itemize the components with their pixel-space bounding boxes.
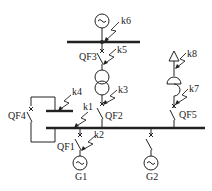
label-k5: k5 bbox=[117, 44, 127, 55]
breaker-QF1 bbox=[75, 128, 82, 156]
sine-icon bbox=[76, 162, 84, 165]
label-k3: k3 bbox=[118, 84, 128, 95]
label-G1: G1 bbox=[75, 171, 87, 182]
transformer bbox=[95, 70, 109, 104]
label-G2: G2 bbox=[146, 171, 158, 182]
fault-arrow-k5 bbox=[103, 49, 116, 65]
label-k8: k8 bbox=[187, 48, 197, 59]
breaker-QF5 bbox=[170, 104, 176, 128]
label-k2: k2 bbox=[94, 129, 104, 140]
fault-arrow-k4 bbox=[58, 95, 71, 111]
fault-arrow-k2 bbox=[81, 136, 95, 151]
label-QF3: QF3 bbox=[79, 51, 97, 62]
breaker-QF4 bbox=[27, 97, 55, 142]
top-generator bbox=[95, 14, 109, 41]
breaker-x-icon bbox=[29, 107, 33, 111]
label-QF2: QF2 bbox=[105, 110, 123, 121]
generator-G1 bbox=[73, 156, 87, 170]
sine-icon bbox=[98, 20, 106, 23]
fault-arrow-k6 bbox=[104, 22, 119, 42]
label-k1: k1 bbox=[83, 101, 93, 112]
breaker-QF2 bbox=[97, 102, 104, 128]
generator-G2 bbox=[144, 156, 158, 170]
label-k6: k6 bbox=[121, 15, 131, 26]
fault-arrow-k1 bbox=[74, 112, 88, 128]
label-QF5: QF5 bbox=[179, 109, 197, 120]
label-QF4: QF4 bbox=[8, 110, 26, 121]
label-k7: k7 bbox=[189, 83, 199, 94]
breaker-QF3 bbox=[97, 42, 104, 70]
single-line-diagram: k6 QF3 k5 k3 QF2 k1 bbox=[0, 0, 212, 191]
label-k4: k4 bbox=[72, 86, 82, 97]
fault-arrow-k7 bbox=[175, 89, 188, 105]
load-arrow bbox=[169, 51, 179, 76]
breaker-G2 bbox=[146, 128, 153, 156]
sine-icon bbox=[147, 162, 155, 165]
fault-arrow-k3 bbox=[103, 90, 117, 105]
label-QF1: QF1 bbox=[57, 141, 75, 152]
